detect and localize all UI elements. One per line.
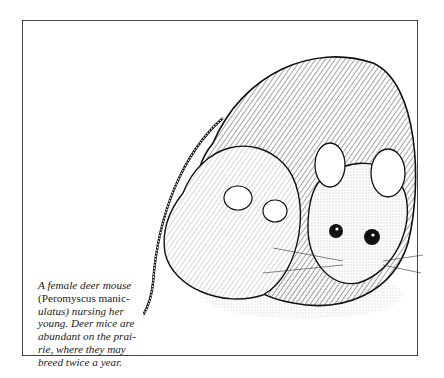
ear-right	[371, 149, 405, 197]
caption-line: young. Deer mice are	[38, 317, 150, 330]
caption-line: ulatus) nursing her	[38, 305, 150, 318]
deer-mouse-illustration	[143, 33, 423, 333]
caption-line: abundant on the prai-	[38, 330, 150, 343]
young-head	[224, 186, 252, 210]
caption-line: (Peromyscus manic-	[38, 292, 150, 305]
figure-frame: A female deer mouse (Peromyscus manic- u…	[22, 20, 418, 356]
figure-caption: A female deer mouse (Peromyscus manic- u…	[38, 279, 150, 369]
caption-line: rie, where they may	[38, 343, 150, 356]
eye-left	[329, 224, 343, 238]
caption-line: breed twice a year.	[38, 356, 150, 369]
ear-left	[315, 143, 345, 187]
eye-right	[364, 229, 380, 245]
caption-line: A female deer mouse	[38, 279, 150, 292]
